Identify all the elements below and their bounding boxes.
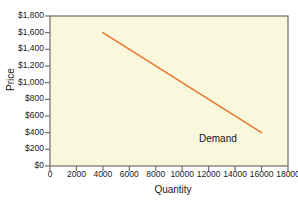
- x-axis-tick-label: 18000: [268, 170, 298, 179]
- x-axis-tick-labels: 0200040006000800010000120001400016000180…: [0, 0, 298, 203]
- demand-curve-chart: Price $0$200$400$600$800$1,000$1,200$1,4…: [0, 0, 298, 203]
- x-axis-title: Quantity: [58, 184, 288, 195]
- demand-series-label: Demand: [199, 133, 237, 144]
